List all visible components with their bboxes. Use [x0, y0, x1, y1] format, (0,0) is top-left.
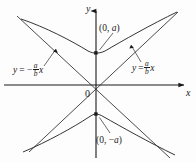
leader-arrowheads-group: [53, 45, 134, 53]
vertex-bottom-label: (0, −a): [96, 136, 122, 146]
asymptote-left-operator: = −: [19, 66, 32, 76]
origin-label: 0: [85, 89, 90, 99]
asymptote-left-variable: x: [39, 66, 43, 76]
vertex-bottom-prefix: (0, −: [96, 135, 114, 145]
asymptote-left-lhs: y: [13, 66, 17, 76]
vertex-top-suffix: ): [116, 23, 119, 33]
asymptote-negative-slope: [17, 16, 170, 158]
asymptote-left-denominator: b: [33, 69, 39, 78]
vertex-bottom-marker: [94, 112, 97, 115]
asymptote-right-lhs: y: [132, 64, 136, 74]
x-axis-label: x: [186, 88, 190, 98]
vertex-top-prefix: (0,: [99, 23, 112, 33]
asymptote-right-denominator: b: [144, 67, 150, 76]
asymptote-left-label: y = − a b x: [13, 62, 43, 79]
vertex-top-label: (0, a): [99, 24, 120, 34]
asymptote-right-numerator: a: [144, 60, 150, 68]
y-axis-label: y: [86, 4, 90, 14]
hyperbola-figure: y x 0 (0, a) (0, −a) y = − a b x y = a b…: [0, 0, 196, 162]
vertex-top-marker: [94, 51, 97, 54]
asymptote-right-variable: x: [150, 64, 154, 74]
asymptote-right-label: y = a b x: [132, 60, 155, 77]
axes-group: [4, 11, 184, 158]
asymptote-left-fraction: a b: [33, 62, 39, 79]
asymptote-left-numerator: a: [33, 62, 39, 70]
asymptote-right-operator: =: [138, 64, 143, 74]
asymptote-right-fraction: a b: [144, 60, 150, 77]
vertex-bottom-suffix: ): [119, 135, 122, 145]
